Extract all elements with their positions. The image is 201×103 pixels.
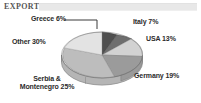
pie-label-serbia-montenegro: Serbia & Montenegro 25% xyxy=(15,75,79,91)
header-divider xyxy=(39,3,197,11)
pie-label-serbia-line1: Serbia & xyxy=(33,75,61,82)
pie-label-greece: Greece 6% xyxy=(31,15,66,23)
exports-pie-chart-figure: EXPORTS xyxy=(0,0,201,103)
pie-label-italy: Italy 7% xyxy=(133,18,158,26)
figure-header: EXPORTS xyxy=(0,0,201,13)
pie-label-serbia-line2: Montenegro 25% xyxy=(20,83,75,90)
chart-area: Greece 6% Italy 7% USA 13% Germany 19% S… xyxy=(0,13,201,103)
pie-label-usa: USA 13% xyxy=(146,35,176,43)
pie-label-other: Other 30% xyxy=(12,38,46,46)
pie-label-germany: Germany 19% xyxy=(134,72,179,80)
